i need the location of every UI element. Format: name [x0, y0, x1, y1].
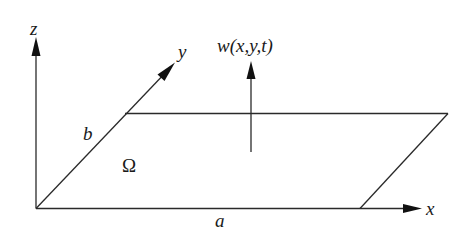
z-axis-arrowhead-icon [32, 37, 41, 56]
plate-diagram: z y x w(x,y,t) b Ω a [0, 0, 476, 239]
x-axis-label: x [425, 198, 435, 219]
x-axis: x [360, 198, 435, 219]
x-axis-arrowhead-icon [403, 204, 422, 213]
displacement-arrow: w(x,y,t) [217, 35, 273, 152]
domain-label-omega: Ω [122, 155, 136, 176]
y-axis-label: y [176, 41, 187, 62]
plate-domain [36, 114, 448, 209]
z-axis: z [29, 18, 41, 209]
length-label-a: a [215, 210, 225, 231]
y-axis-line [36, 70, 168, 209]
width-label-b: b [83, 123, 93, 144]
displacement-label: w(x,y,t) [217, 35, 273, 57]
plate-edge-right [360, 114, 448, 209]
displacement-arrowhead-icon [247, 61, 256, 79]
z-axis-label: z [29, 18, 38, 39]
y-axis: y [36, 41, 187, 209]
